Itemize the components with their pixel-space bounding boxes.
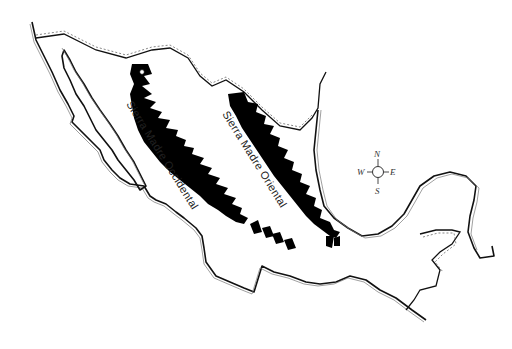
compass-south: S [375,186,380,196]
compass-rose: N S E W [357,149,396,196]
sierra-madre-oriental-range [228,92,340,248]
pacific-coastline [30,22,426,322]
map-canvas: Sierra Madre Occidental Sierra Madre Ori… [0,0,512,349]
compass-north: N [373,149,381,159]
compass-west: W [357,167,366,177]
gulf-coastline [314,110,494,258]
us-border [36,31,326,130]
compass-east: E [389,167,396,177]
location-marker [140,70,145,75]
guatemala-border [406,230,460,310]
